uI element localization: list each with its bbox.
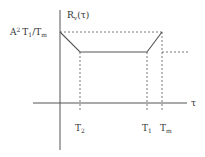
tick-Tm: Tm [160,123,172,134]
y-axis-label: Rv(τ) [67,10,89,21]
rv-curve [60,32,162,52]
tick-T1: T1 [142,123,152,134]
x-axis-label: τ [191,98,196,108]
autocorrelation-diagram: Rv(τ) A2T1/Tm τ T2 T1 Tm [0,0,205,157]
guide-lines [60,32,190,112]
diagram-canvas: Rv(τ) A2T1/Tm τ T2 T1 Tm [0,0,205,157]
level-label: A2T1/Tm [9,26,47,38]
tick-T2: T2 [75,123,85,134]
